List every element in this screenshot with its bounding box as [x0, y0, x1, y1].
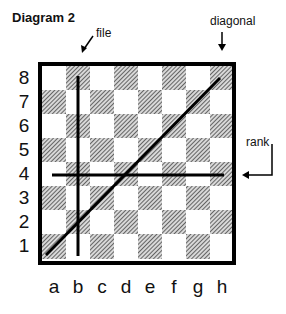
file-arrow-icon	[81, 36, 93, 53]
chessboard-diagram	[0, 0, 286, 314]
diagonal-arrow-icon	[218, 32, 226, 51]
rank-arrow-icon	[242, 144, 272, 179]
